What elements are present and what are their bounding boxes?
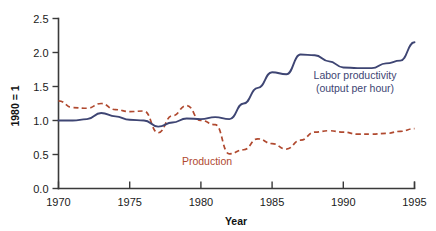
x-axis-tick-label: 1980 xyxy=(189,196,213,208)
chart-figure: 0.00.51.01.52.02.5 197019751980198519901… xyxy=(0,0,436,231)
y-axis-tick-label: 1.5 xyxy=(33,81,48,93)
x-axis-tick-label: 1975 xyxy=(117,196,141,208)
production-series-line xyxy=(59,101,415,154)
y-axis-tick-label: 0.5 xyxy=(33,149,48,161)
x-axis-tick-label: 1990 xyxy=(331,196,355,208)
x-axis-title: Year xyxy=(225,215,247,227)
labor-productivity-label-line1: Labor productivity xyxy=(314,69,398,81)
y-axis-tick-label: 2.5 xyxy=(33,13,48,25)
production-label: Production xyxy=(182,155,232,167)
labor-productivity-label-line2: (output per hour) xyxy=(316,82,394,94)
y-axis-tick-group: 0.00.51.01.52.02.5 xyxy=(33,13,58,195)
y-axis-tick-label: 2.0 xyxy=(33,47,48,59)
y-axis-tick-label: 0.0 xyxy=(33,183,48,195)
x-axis-tick-label: 1970 xyxy=(46,196,70,208)
x-axis-tick-group: 197019751980198519901995 xyxy=(46,182,426,208)
y-axis-tick-label: 1.0 xyxy=(33,115,48,127)
x-axis-tick-label: 1995 xyxy=(402,196,426,208)
x-axis-tick-label: 1985 xyxy=(260,196,284,208)
y-axis-title: 1980 = 1 xyxy=(9,85,21,126)
line-chart-canvas: 0.00.51.01.52.02.5 197019751980198519901… xyxy=(0,0,436,231)
